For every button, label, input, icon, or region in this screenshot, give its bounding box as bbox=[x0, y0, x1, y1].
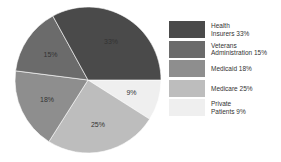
slice-value-label: 33% bbox=[104, 38, 118, 45]
legend-label-line: Medicaid 18% bbox=[211, 65, 281, 73]
legend-item-veterans-administration: Veterans Administration 15% bbox=[169, 41, 279, 61]
slice-value-label: 15% bbox=[44, 51, 58, 58]
legend-label-line: Administration 15% bbox=[211, 49, 281, 57]
legend-label-line: Insurers 33% bbox=[211, 30, 281, 38]
legend-item-medicare: Medicare 25% bbox=[169, 80, 279, 100]
slice-value-label: 18% bbox=[40, 96, 54, 103]
legend-label-line: Private bbox=[211, 100, 281, 108]
legend-label: Veterans Administration 15% bbox=[211, 42, 281, 57]
slice-value-label: 25% bbox=[91, 121, 105, 128]
legend-swatch bbox=[169, 21, 205, 38]
legend-label: Health Insurers 33% bbox=[211, 22, 281, 37]
slice-value-label: 9% bbox=[126, 89, 136, 96]
legend-label-line: Medicare 25% bbox=[211, 85, 281, 93]
legend-label-line: Patients 9% bbox=[211, 108, 281, 116]
legend-swatch bbox=[169, 60, 205, 77]
legend: Health Insurers 33% Veterans Administrat… bbox=[169, 21, 279, 119]
legend-item-medicaid: Medicaid 18% bbox=[169, 60, 279, 80]
legend-label: Medicare 25% bbox=[211, 85, 281, 93]
legend-label: Medicaid 18% bbox=[211, 65, 281, 73]
legend-label-line: Veterans bbox=[211, 42, 281, 50]
legend-item-private-patients: Private Patients 9% bbox=[169, 99, 279, 119]
pie-chart: 9%25%18%15%33% bbox=[0, 0, 170, 162]
legend-item-health-insurers: Health Insurers 33% bbox=[169, 21, 279, 41]
legend-swatch bbox=[169, 41, 205, 58]
legend-swatch bbox=[169, 80, 205, 97]
legend-label: Private Patients 9% bbox=[211, 100, 281, 115]
legend-label-line: Health bbox=[211, 22, 281, 30]
legend-swatch bbox=[169, 99, 205, 116]
